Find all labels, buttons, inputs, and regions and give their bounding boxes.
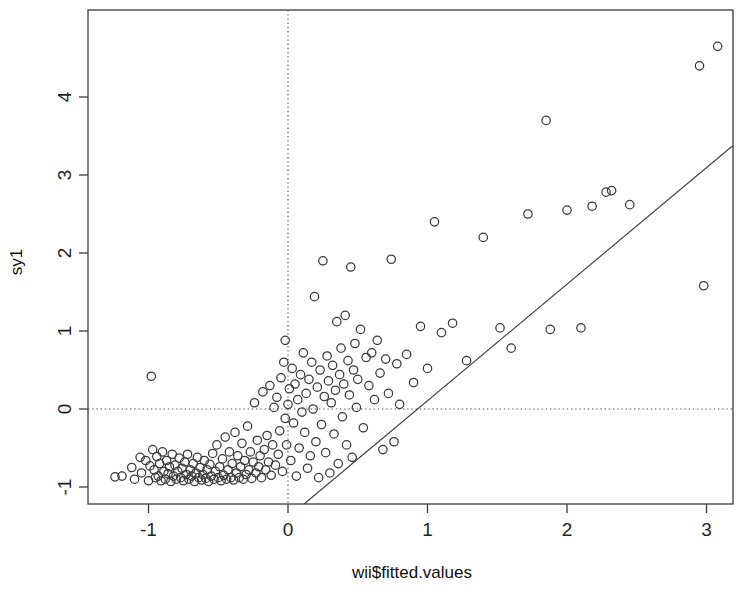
- data-point-marker: [713, 42, 721, 50]
- data-point-marker: [359, 424, 367, 432]
- x-tick-label: 3: [701, 519, 712, 540]
- data-point-marker: [295, 444, 303, 452]
- data-point-marker: [327, 399, 335, 407]
- data-point-marker: [271, 461, 279, 469]
- y-tick-label: 0: [54, 404, 75, 415]
- y-tick-label: -1: [54, 479, 75, 496]
- data-point-marker: [626, 200, 634, 208]
- data-point-marker: [330, 430, 338, 438]
- plot-frame: [88, 10, 733, 504]
- data-point-marker: [324, 377, 332, 385]
- data-point-marker: [208, 449, 216, 457]
- data-point-marker: [303, 464, 311, 472]
- data-point-marker: [213, 441, 221, 449]
- x-axis-title: wii$fitted.values: [351, 563, 472, 582]
- data-point-marker: [225, 448, 233, 456]
- data-point-marker: [241, 456, 249, 464]
- data-point-marker: [423, 364, 431, 372]
- data-point-marker: [236, 463, 244, 471]
- y-axis-title: sy1: [7, 249, 26, 275]
- data-point-marker: [462, 356, 470, 364]
- y-tick-label: 2: [54, 248, 75, 259]
- data-point-marker: [288, 364, 296, 372]
- data-point-marker: [337, 344, 345, 352]
- data-point-marker: [588, 202, 596, 210]
- data-point-marker: [218, 455, 226, 463]
- data-point-marker: [577, 324, 585, 332]
- data-point-marker: [602, 188, 610, 196]
- data-point-marker: [352, 403, 360, 411]
- data-point-marker: [253, 436, 261, 444]
- data-point-marker: [335, 370, 343, 378]
- data-point-marker: [238, 439, 246, 447]
- data-point-marker: [317, 420, 325, 428]
- data-points-group: [111, 42, 722, 486]
- data-point-marker: [302, 389, 310, 397]
- data-point-marker: [313, 383, 321, 391]
- plot-box-border: [88, 10, 733, 504]
- data-point-marker: [263, 431, 271, 439]
- data-point-marker: [270, 403, 278, 411]
- data-point-marker: [147, 372, 155, 380]
- data-point-marker: [370, 395, 378, 403]
- data-point-marker: [393, 360, 401, 368]
- data-point-marker: [281, 336, 289, 344]
- data-point-marker: [607, 186, 615, 194]
- data-point-marker: [228, 459, 236, 467]
- data-point-marker: [250, 399, 258, 407]
- data-point-marker: [344, 356, 352, 364]
- data-point-marker: [298, 408, 306, 416]
- data-point-marker: [700, 282, 708, 290]
- reference-lines-group: [88, 10, 733, 504]
- x-tick-label: 0: [283, 519, 294, 540]
- data-point-marker: [268, 441, 276, 449]
- data-point-marker: [321, 448, 329, 456]
- data-point-marker: [695, 62, 703, 70]
- data-point-marker: [546, 325, 554, 333]
- data-point-marker: [231, 428, 239, 436]
- data-point-marker: [274, 450, 282, 458]
- data-point-marker: [328, 361, 336, 369]
- data-point-marker: [379, 445, 387, 453]
- data-point-marker: [312, 438, 320, 446]
- data-point-marker: [259, 388, 267, 396]
- data-point-marker: [308, 358, 316, 366]
- data-point-marker: [390, 438, 398, 446]
- plot-canvas: -10123 -101234 wii$fitted.values sy1: [0, 0, 737, 592]
- data-point-marker: [183, 450, 191, 458]
- data-point-marker: [376, 369, 384, 377]
- data-point-marker: [260, 445, 268, 453]
- data-point-marker: [381, 355, 389, 363]
- data-point-marker: [430, 218, 438, 226]
- data-point-marker: [387, 255, 395, 263]
- data-point-marker: [416, 322, 424, 330]
- regression-line: [304, 145, 733, 504]
- data-point-marker: [349, 366, 357, 374]
- data-point-marker: [437, 328, 445, 336]
- data-point-marker: [496, 324, 504, 332]
- data-point-marker: [331, 386, 339, 394]
- data-point-marker: [224, 466, 232, 474]
- data-point-marker: [301, 428, 309, 436]
- data-point-marker: [348, 453, 356, 461]
- data-point-marker: [257, 473, 265, 481]
- data-point-marker: [373, 336, 381, 344]
- scatter-plot-figure: -10123 -101234 wii$fitted.values sy1: [0, 0, 737, 592]
- data-point-marker: [334, 459, 342, 467]
- data-point-marker: [316, 366, 324, 374]
- data-point-marker: [273, 393, 281, 401]
- data-point-marker: [354, 375, 362, 383]
- data-point-marker: [266, 381, 274, 389]
- data-point-marker: [395, 400, 403, 408]
- data-point-marker: [285, 385, 293, 393]
- data-point-marker: [292, 472, 300, 480]
- data-point-marker: [130, 475, 138, 483]
- data-point-marker: [524, 210, 532, 218]
- data-point-marker: [275, 427, 283, 435]
- data-point-marker: [314, 473, 322, 481]
- data-point-marker: [409, 378, 417, 386]
- data-point-marker: [333, 317, 341, 325]
- data-point-marker: [221, 433, 229, 441]
- data-point-marker: [341, 311, 349, 319]
- x-tick-label: 1: [422, 519, 433, 540]
